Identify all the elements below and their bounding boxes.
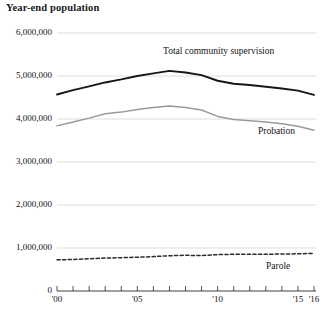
x-tick-label: '05 [123, 294, 151, 304]
x-tick-marks-group [57, 286, 314, 291]
y-tick-label: 4,000,000 [0, 113, 52, 123]
series-line-total-community-supervision [57, 71, 314, 95]
y-tick-label: 2,000,000 [0, 199, 52, 209]
chart-container: Year-end population 6,000,0005,000,0004,… [0, 0, 330, 322]
y-tick-label: 1,000,000 [0, 242, 52, 252]
x-tick-label: '10 [204, 294, 232, 304]
series-label-probation: Probation [258, 126, 295, 136]
y-tick-label: 5,000,000 [0, 70, 52, 80]
series-label-total-community-supervision: Total community supervision [163, 46, 274, 56]
x-tick-label: '00 [43, 294, 71, 304]
y-tick-label: 6,000,000 [0, 27, 52, 37]
gridlines-group [57, 33, 316, 248]
x-tick-label: '16 [300, 294, 328, 304]
series-label-parole: Parole [266, 261, 290, 271]
series-line-parole [57, 253, 314, 259]
y-tick-label: 3,000,000 [0, 156, 52, 166]
series-paths-group [57, 71, 314, 260]
